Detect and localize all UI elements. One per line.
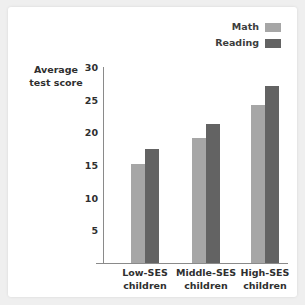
y-axis-title-line-2: test score [20, 77, 92, 90]
x-axis-label-line: Middle-SES [176, 267, 236, 280]
bar-math-3[interactable] [251, 105, 265, 263]
legend-swatch-reading [265, 39, 281, 48]
legend-swatch-math [265, 23, 281, 32]
chart-legend: Math Reading [215, 21, 281, 49]
x-axis-label: High-SESchildren [241, 267, 290, 292]
legend-item-math: Math [232, 21, 281, 33]
x-axis-label: Middle-SESchildren [176, 267, 236, 292]
y-axis-line [103, 67, 104, 263]
y-axis-tick-label: 30 [85, 62, 98, 73]
plot-area: 51015202530 Low-SESchildrenMiddle-SESchi… [103, 67, 288, 263]
y-axis-tick-label: 10 [85, 192, 98, 203]
y-axis-tick-label: 5 [91, 225, 98, 236]
y-axis-title-line-1: Average [20, 64, 92, 77]
legend-label-reading: Reading [215, 37, 259, 49]
x-axis-label: Low-SESchildren [122, 267, 167, 292]
y-axis-tick-label: 25 [85, 94, 98, 105]
y-axis-tick-label: 20 [85, 127, 98, 138]
bar-reading-1[interactable] [145, 149, 159, 263]
x-axis-label-line: High-SES [241, 267, 290, 280]
bar-reading-3[interactable] [265, 86, 279, 263]
bar-group [192, 67, 220, 263]
y-axis-title: Average test score [20, 64, 92, 89]
bar-group [131, 67, 159, 263]
bar-math-2[interactable] [192, 138, 206, 263]
x-axis-label-line: Low-SES [122, 267, 167, 280]
bar-group [251, 67, 279, 263]
chart-card: Math Reading Average test score 51015202… [8, 7, 297, 297]
x-axis-label-line: children [122, 280, 167, 293]
y-axis-tick-label: 15 [85, 160, 98, 171]
x-axis-label-line: children [176, 280, 236, 293]
legend-item-reading: Reading [215, 37, 281, 49]
legend-label-math: Math [232, 21, 259, 33]
bar-reading-2[interactable] [206, 124, 220, 263]
x-axis-line [96, 263, 288, 264]
bar-math-1[interactable] [131, 164, 145, 263]
x-axis-label-line: children [241, 280, 290, 293]
